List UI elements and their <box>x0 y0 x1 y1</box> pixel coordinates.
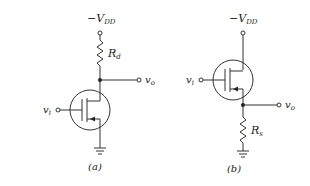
supply-label-b: −VDD <box>229 12 258 26</box>
output-label-a: vo <box>145 74 155 87</box>
drain-resistor <box>97 40 103 66</box>
output-terminal-a <box>137 78 141 82</box>
supply-label-a: −VDD <box>87 12 116 26</box>
circuit-a: −VDD Rd vo vi (a) <box>43 12 155 172</box>
source-resistor <box>240 117 246 143</box>
ground-icon <box>237 151 249 157</box>
resistor-label-a: Rd <box>107 47 121 61</box>
caption-a: (a) <box>88 161 102 172</box>
input-label-b: vi <box>186 74 194 87</box>
input-label-a: vi <box>43 104 51 117</box>
output-terminal-b <box>277 103 281 107</box>
output-label-b: vo <box>285 99 295 112</box>
mosfet-a <box>60 90 110 148</box>
supply-terminal-a <box>98 31 102 35</box>
ground-icon <box>94 148 106 154</box>
circuit-b: −VDD vi vo Rs (b) <box>186 12 295 174</box>
mosfet-b <box>203 60 253 100</box>
input-terminal-b <box>199 78 203 82</box>
input-terminal-a <box>56 108 60 112</box>
resistor-label-b: Rs <box>250 124 263 138</box>
circuit-diagrams: −VDD Rd vo vi (a) −VD <box>0 0 310 186</box>
caption-b: (b) <box>227 163 241 174</box>
supply-terminal-b <box>241 31 245 35</box>
